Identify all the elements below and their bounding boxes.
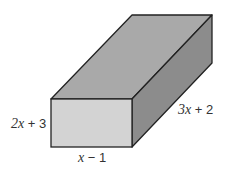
depth-label-rest: + 2 (191, 102, 213, 117)
height-label-rest: + 3 (24, 116, 46, 131)
rectangular-prism-diagram: 2x + 3 x − 1 3x + 2 (0, 0, 228, 169)
width-label: x − 1 (77, 150, 106, 165)
width-label-rest: − 1 (84, 150, 106, 165)
prism-front-face (51, 99, 132, 147)
height-label: 2x + 3 (11, 116, 46, 131)
height-label-var: 2x (11, 116, 25, 131)
depth-label: 3x + 2 (177, 102, 213, 117)
depth-label-var: 3x (177, 102, 192, 117)
